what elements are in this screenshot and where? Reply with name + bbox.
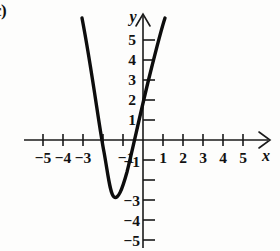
y-tick-label--3: −3: [123, 192, 140, 209]
y-tick-label-1: 1: [128, 111, 136, 128]
y-tick-label--4: −4: [123, 212, 140, 229]
x-tick-label-4: 4: [219, 149, 227, 166]
y-tick-label-5: 5: [128, 31, 136, 48]
y-tick-label-2: 2: [128, 91, 136, 108]
x-tick-label-2: 2: [179, 149, 187, 166]
y-tick-label--5: −5: [123, 232, 140, 249]
x-tick-label-5: 5: [239, 149, 247, 166]
graph-canvas: −5 −4 −3 −1 1 2 3 4 5 5 4 3 2 1 −1 −3 −4…: [0, 0, 280, 251]
x-tick-label--3: −3: [75, 149, 92, 166]
y-tick-label-3: 3: [128, 71, 136, 88]
x-axis-label: x: [261, 147, 270, 164]
x-tick-label-3: 3: [199, 149, 207, 166]
part-label: c): [0, 2, 6, 19]
x-tick-label--5: −5: [35, 149, 52, 166]
x-tick-label--4: −4: [55, 149, 72, 166]
parabola-figure: c): [0, 0, 280, 251]
x-tick-label-1: 1: [159, 149, 167, 166]
y-tick-label-4: 4: [128, 51, 136, 68]
parabola-curve: [82, 18, 165, 198]
y-axis-label: y: [127, 8, 137, 26]
